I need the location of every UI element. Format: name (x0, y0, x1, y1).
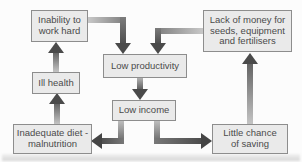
arrow-segment (155, 28, 161, 43)
arrowhead-up (48, 42, 64, 53)
node-lack-of-money: Lack of money for seeds, equipment and f… (203, 10, 292, 52)
arrow-segment (154, 138, 201, 144)
arrow-segment (120, 17, 126, 43)
node-low-productivity: Low productivity (103, 54, 187, 78)
arrow-segment (247, 64, 253, 124)
node-inadequate-diet: Inadequate diet - malnutrition (13, 124, 92, 154)
poverty-cycle-diagram: Inability to work hard Lack of money for… (0, 0, 302, 162)
scan-artifact-band (2, 154, 300, 161)
arrowhead-up (49, 93, 65, 104)
arrowhead-down (150, 43, 166, 54)
node-ill-health: Ill health (32, 72, 80, 94)
arrow-segment (53, 53, 59, 72)
node-little-chance-of-saving: Little chance of saving (212, 124, 288, 154)
arrow-segment (154, 121, 160, 138)
arrow-segment (54, 104, 60, 124)
arrow-segment (100, 138, 124, 144)
node-inability-to-work-hard: Inability to work hard (31, 10, 88, 42)
node-low-income: Low income (112, 100, 176, 121)
arrow-segment (155, 28, 203, 34)
arrowhead-down (115, 43, 131, 54)
arrowhead-down (132, 89, 148, 100)
arrowhead-left (91, 133, 102, 149)
arrow-segment (118, 121, 124, 138)
arrowhead-right (201, 133, 212, 149)
arrowhead-up (242, 53, 258, 64)
